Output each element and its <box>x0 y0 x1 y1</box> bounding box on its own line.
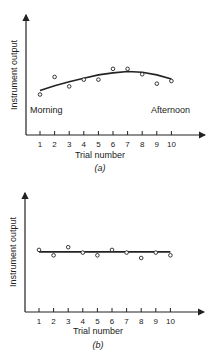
data-point <box>97 78 101 82</box>
fit-curve-a <box>40 72 171 91</box>
x-tick-label: 3 <box>66 317 71 326</box>
y-axis-label-a: Instrument output <box>9 39 19 110</box>
x-tick-label: 9 <box>154 317 159 326</box>
x-tick-label: 7 <box>125 140 130 149</box>
x-tick-label: 4 <box>82 140 87 149</box>
x-tick-label: 8 <box>140 140 145 149</box>
data-point <box>52 254 56 258</box>
x-tick-label: 1 <box>37 317 42 326</box>
x-tick-label: 5 <box>95 317 100 326</box>
x-tick-labels-b: 12345678910 <box>37 317 176 326</box>
y-axis-label-b: Instrument output <box>8 216 18 287</box>
x-tick-label: 6 <box>110 317 115 326</box>
x-tick-label: 4 <box>81 317 86 326</box>
x-tick-label: 3 <box>67 140 72 149</box>
panel-label-a: (a) <box>95 163 106 173</box>
data-point <box>111 67 115 71</box>
data-point <box>37 248 41 252</box>
x-axis-label-b: Trial number <box>73 326 123 336</box>
data-point <box>110 248 114 252</box>
x-tick-label: 5 <box>96 140 101 149</box>
x-tick-label: 1 <box>38 140 43 149</box>
annotation-morning: Morning <box>30 105 63 115</box>
data-point <box>126 67 130 71</box>
x-axis-label-a: Trial number <box>75 150 125 160</box>
x-tick-label: 9 <box>155 140 160 149</box>
data-point <box>53 75 57 79</box>
data-point <box>67 85 71 89</box>
data-point <box>139 256 143 260</box>
data-point <box>96 254 100 258</box>
x-tick-label: 7 <box>124 317 129 326</box>
data-point <box>66 245 70 249</box>
panel-a: 12345678910 Instrument output Morning Af… <box>9 15 205 173</box>
data-point <box>155 82 159 86</box>
x-tick-label: 2 <box>52 140 57 149</box>
figure: 12345678910 Instrument output Morning Af… <box>0 0 216 361</box>
x-tick-label: 8 <box>139 317 144 326</box>
x-tick-labels-a: 12345678910 <box>38 140 177 149</box>
data-point <box>169 254 173 258</box>
panel-label-b: (b) <box>93 340 104 350</box>
data-point <box>170 79 174 83</box>
annotation-afternoon: Afternoon <box>151 105 190 115</box>
data-point <box>125 251 129 255</box>
x-tick-label: 10 <box>166 317 175 326</box>
x-tick-label: 6 <box>111 140 116 149</box>
data-point <box>140 72 144 76</box>
data-point <box>154 251 158 255</box>
data-points-a <box>38 67 173 96</box>
data-point <box>38 93 42 97</box>
x-tick-label: 2 <box>51 317 56 326</box>
data-point <box>82 78 86 82</box>
x-tick-label: 10 <box>167 140 176 149</box>
data-point <box>81 251 85 255</box>
panel-b: 12345678910 Instrument output Trial numb… <box>8 193 204 350</box>
